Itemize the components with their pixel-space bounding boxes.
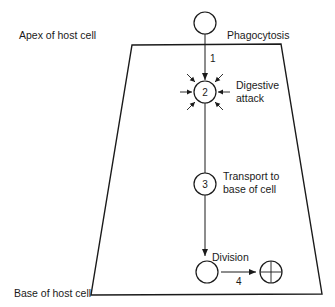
organism-circle-predivision [196,261,218,283]
digestive-attack-label-line1: Digestive [236,79,279,91]
step-3-label: 3 [202,179,208,190]
host-cell-diagram: Apex of host cell Phagocytosis Base of h… [0,0,335,307]
step-4-label: 4 [236,276,242,287]
apex-label: Apex of host cell [19,29,96,41]
attack-arrow-upper-right [215,74,223,82]
transport-label-line1: Transport to [223,170,279,182]
phagocytosis-label: Phagocytosis [227,29,289,41]
organism-circle-incoming [194,12,216,34]
attack-arrow-lower-left [187,102,195,110]
digestive-attack-label-line2: attack [236,92,265,104]
attack-arrow-upper-left [187,74,195,82]
base-label: Base of host cell [14,287,91,299]
divided-organism [260,261,282,283]
transport-label-line2: base of cell [223,183,276,195]
step-1-label: 1 [210,53,216,64]
attack-arrow-lower-right [215,102,223,110]
division-label: Division [212,251,249,263]
step-2-label: 2 [202,87,208,98]
